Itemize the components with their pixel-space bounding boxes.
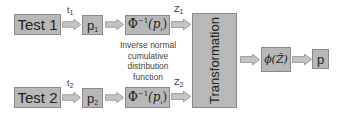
output-p-label: p: [317, 52, 324, 67]
transformation-label: Transformation: [207, 17, 222, 104]
phi-z-box: ϕ(Z̃): [261, 47, 291, 72]
test-1-label: Test 1: [17, 16, 57, 33]
z2-label: Z2: [174, 77, 183, 88]
p1-label: p1: [87, 18, 98, 33]
test-1-box: Test 1: [14, 14, 61, 35]
test-2-box: Test 2: [14, 87, 61, 108]
arrow-p2-to-phiinv-icon: [105, 91, 124, 104]
phi-inverse-2-box: Φ−1(pi): [125, 87, 170, 108]
output-p-box: p: [312, 49, 329, 69]
arrow-transformation-to-phi-icon: [240, 53, 260, 66]
arrow-phi-to-p-icon: [292, 53, 312, 66]
phi-inverse-1-formula: Φ−1(pi): [128, 17, 167, 32]
p1-box: p1: [82, 15, 103, 35]
phi-z-formula: ϕ(Z̃): [264, 53, 288, 66]
arrow-test1-to-p1-icon: [62, 18, 81, 31]
test-2-label: Test 2: [17, 89, 57, 106]
p2-label: p2: [87, 91, 98, 106]
arrow-p1-to-phiinv-icon: [105, 18, 124, 31]
t1-label: t1: [67, 5, 73, 16]
arrow-z1-to-transformation-icon: [171, 18, 191, 31]
z1-label: Z1: [174, 4, 183, 15]
transformation-box: Transformation: [192, 13, 237, 108]
phi-inverse-1-box: Φ−1(pi): [125, 15, 170, 35]
arrow-test2-to-p2-icon: [62, 91, 81, 104]
phi-inverse-2-formula: Φ−1(pi): [128, 90, 167, 105]
p2-box: p2: [82, 88, 103, 108]
inverse-normal-caption: Inverse normal cumulative distribution f…: [118, 40, 178, 82]
t2-label: t2: [67, 78, 73, 89]
arrow-z2-to-transformation-icon: [171, 90, 191, 103]
